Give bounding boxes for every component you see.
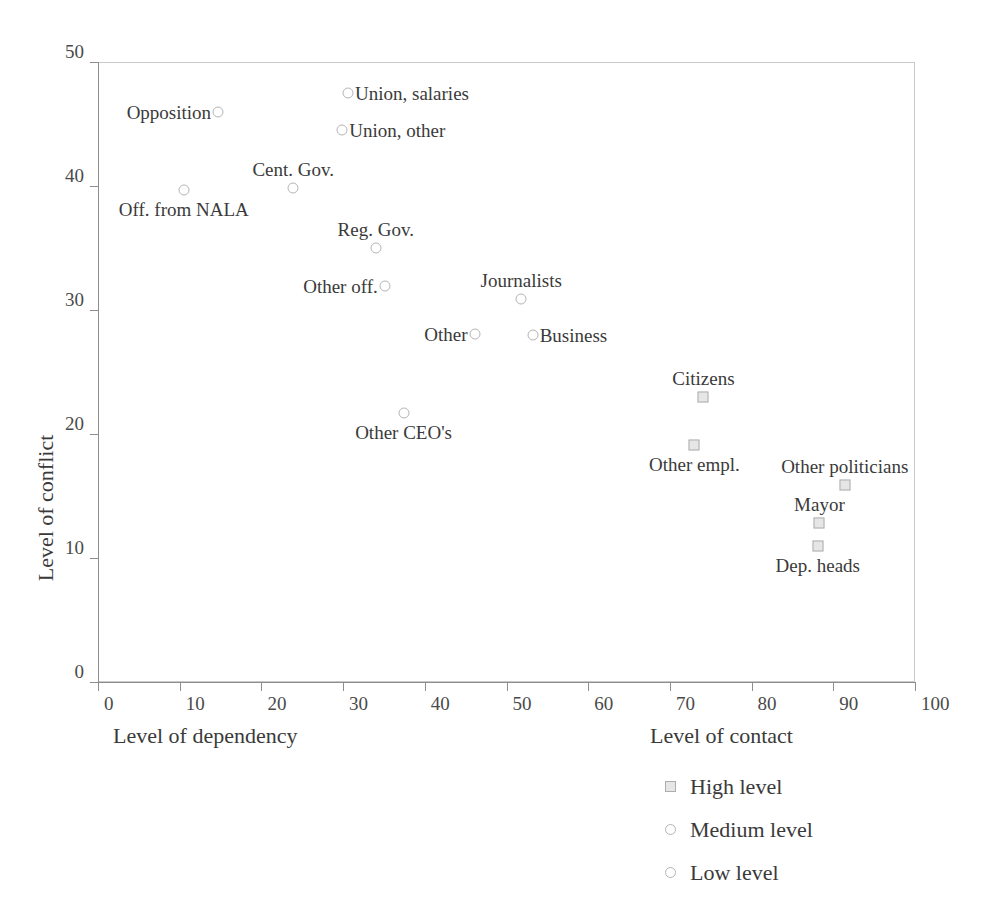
data-point-marker[interactable] (814, 518, 825, 529)
x-tick (752, 683, 753, 691)
x-tick (915, 683, 916, 691)
x-tick-label: 60 (594, 693, 613, 715)
y-axis-title: Level of conflict (33, 398, 59, 618)
legend-circle-icon (665, 824, 676, 835)
data-point-label: Citizens (672, 369, 734, 388)
x-tick (98, 683, 99, 691)
data-point-label: Other politicians (781, 457, 908, 476)
x-tick (588, 683, 589, 691)
y-tick-label: 30 (38, 289, 84, 311)
data-point-marker[interactable] (370, 243, 381, 254)
data-point-label: Opposition (127, 102, 211, 121)
x-tick-label: 70 (676, 693, 695, 715)
data-point-label: Other (424, 324, 467, 343)
legend-item-medium-level[interactable]: Medium level (665, 808, 965, 851)
legend-label: Medium level (690, 817, 813, 843)
data-point-marker[interactable] (698, 391, 709, 402)
y-tick (90, 310, 98, 311)
x-tick (343, 683, 344, 691)
legend-label: Low level (690, 860, 779, 886)
y-tick (90, 186, 98, 187)
legend-item-low-level[interactable]: Low level (665, 851, 965, 894)
x-tick (261, 683, 262, 691)
plot-area (98, 62, 915, 682)
legend-circle-icon (665, 867, 676, 878)
y-tick (90, 558, 98, 559)
x-tick-label: 20 (267, 693, 286, 715)
legend: High levelMedium levelLow level (665, 765, 965, 894)
data-point-label: Off. from NALA (119, 200, 249, 219)
x-tick-label: 40 (431, 693, 450, 715)
data-point-marker[interactable] (178, 184, 189, 195)
data-point-label: Other empl. (649, 455, 740, 474)
x-tick-label: 30 (349, 693, 368, 715)
y-axis-line (98, 62, 99, 683)
y-tick (90, 682, 98, 683)
data-point-marker[interactable] (337, 125, 348, 136)
data-point-label: Cent. Gov. (252, 160, 334, 179)
top-caption (0, 0, 983, 10)
x-tick-label: 50 (513, 693, 532, 715)
data-point-label: Reg. Gov. (338, 220, 414, 239)
y-tick-label: 0 (38, 661, 84, 683)
x-tick (180, 683, 181, 691)
legend-square-icon (665, 781, 676, 792)
data-point-marker[interactable] (398, 407, 409, 418)
x-tick-label: 100 (921, 693, 950, 715)
data-point-marker[interactable] (213, 106, 224, 117)
data-point-marker[interactable] (516, 293, 527, 304)
y-tick (90, 62, 98, 63)
data-point-marker[interactable] (689, 440, 700, 451)
x-tick-label: 10 (186, 693, 205, 715)
data-point-label: Business (540, 325, 608, 344)
scatter-chart: 0102030405060708090100 01020304050 Oppos… (0, 0, 983, 911)
data-point-marker[interactable] (379, 281, 390, 292)
x-tick (833, 683, 834, 691)
x-axis-title-dependency: Level of dependency (113, 723, 297, 749)
y-tick (90, 434, 98, 435)
data-point-label: Journalists (481, 271, 562, 290)
x-tick-label: 80 (758, 693, 777, 715)
legend-item-high-level[interactable]: High level (665, 765, 965, 808)
data-point-label: Other off. (303, 277, 378, 296)
y-tick-label: 50 (38, 41, 84, 63)
data-point-marker[interactable] (527, 329, 538, 340)
data-point-marker[interactable] (343, 88, 354, 99)
data-point-label: Other CEO's (355, 423, 452, 442)
x-axis-title-contact: Level of contact (650, 723, 793, 749)
x-tick (670, 683, 671, 691)
x-tick-label: 90 (839, 693, 858, 715)
data-point-marker[interactable] (812, 540, 823, 551)
data-point-label: Mayor (794, 495, 845, 514)
legend-label: High level (690, 774, 782, 800)
x-tick (507, 683, 508, 691)
x-tick-label: 0 (104, 693, 114, 715)
y-tick-label: 40 (38, 165, 84, 187)
x-tick (425, 683, 426, 691)
data-point-label: Dep. heads (776, 556, 860, 575)
data-point-marker[interactable] (288, 183, 299, 194)
data-point-marker[interactable] (839, 479, 850, 490)
data-point-label: Union, salaries (355, 84, 469, 103)
data-point-marker[interactable] (469, 328, 480, 339)
data-point-label: Union, other (349, 121, 445, 140)
